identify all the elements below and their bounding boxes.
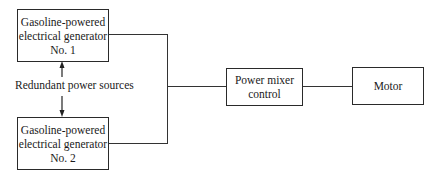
generator-1-line-3: No. 1 xyxy=(50,43,76,57)
arrow-up-icon xyxy=(60,61,65,68)
mixer-line-1: Power mixer xyxy=(235,73,294,87)
power-mixer-box: Power mixer control xyxy=(226,68,303,106)
generator-2-line-3: No. 2 xyxy=(50,151,76,165)
redundant-power-label: Redundant power sources xyxy=(15,79,134,91)
arrow-down-icon xyxy=(60,110,65,117)
generator-2-box: Gasoline-powered electrical generator No… xyxy=(17,117,109,170)
motor-label: Motor xyxy=(374,79,403,93)
mixer-line-2: control xyxy=(248,87,281,101)
generator-1-line-1: Gasoline-powered xyxy=(21,15,105,29)
generator-2-line-2: electrical generator xyxy=(19,137,107,151)
generator-2-line-1: Gasoline-powered xyxy=(21,123,105,137)
generator-1-line-2: electrical generator xyxy=(19,29,107,43)
generator-1-box: Gasoline-powered electrical generator No… xyxy=(17,9,109,62)
motor-box: Motor xyxy=(352,67,424,105)
